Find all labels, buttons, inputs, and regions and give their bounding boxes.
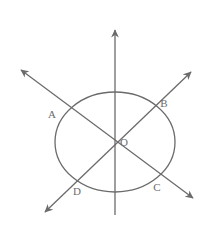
label-point-d: D xyxy=(73,185,81,197)
geometry-canvas: A B O C D xyxy=(0,0,212,233)
geometry-figure: A B O C D xyxy=(0,0,212,233)
label-point-a: A xyxy=(48,108,56,120)
label-point-b: B xyxy=(160,97,167,109)
line-d-b xyxy=(45,72,191,212)
line-a-c xyxy=(21,70,193,198)
label-point-o: O xyxy=(120,136,128,148)
label-point-c: C xyxy=(153,181,160,193)
